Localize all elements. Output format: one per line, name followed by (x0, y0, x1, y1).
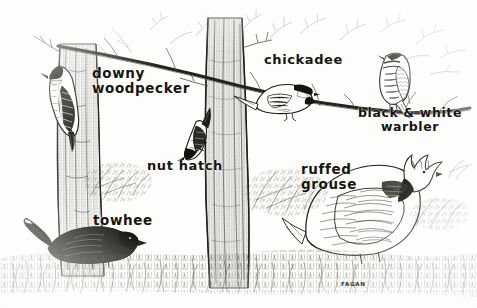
label-downy-woodpecker: downy woodpecker (92, 66, 190, 95)
label-ruffed-grouse: ruffed grouse (301, 162, 357, 191)
artist-signature: FAGAN (341, 281, 366, 287)
label-chickadee: chickadee (264, 53, 343, 67)
label-towhee: towhee (93, 213, 153, 228)
illustration-plate: downy woodpecker chickadee black & white… (0, 0, 477, 308)
label-black-and-white-warbler: black & white warbler (358, 106, 462, 133)
scene-drawing (0, 0, 477, 308)
label-nuthatch: nut hatch (147, 159, 223, 173)
